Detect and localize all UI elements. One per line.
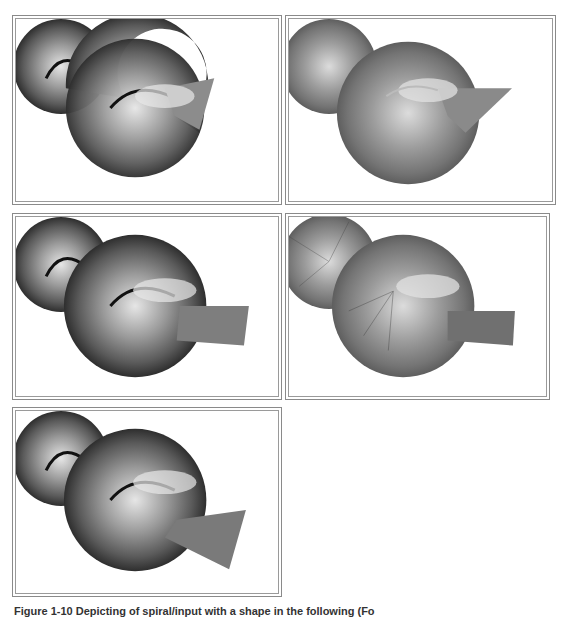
spiral-shell-image xyxy=(16,411,278,593)
figure-panel-4 xyxy=(285,213,550,400)
panel-image-area xyxy=(15,18,279,202)
panel-image-area xyxy=(288,18,553,202)
spiral-shell-image xyxy=(289,217,546,396)
spiral-shell-image xyxy=(16,217,278,396)
figure-caption: Figure 1-10 Depicting of spiral/input wi… xyxy=(14,604,564,618)
figure-panel-1 xyxy=(12,15,282,205)
figure-panel-3 xyxy=(12,213,282,400)
panel-image-area xyxy=(15,216,279,397)
spiral-shell-image xyxy=(289,19,552,201)
figure-panel-5 xyxy=(12,407,282,597)
spiral-shell-image xyxy=(16,19,278,201)
panel-image-area xyxy=(288,216,547,397)
figure-panel-2 xyxy=(285,15,556,205)
panel-image-area xyxy=(15,410,279,594)
